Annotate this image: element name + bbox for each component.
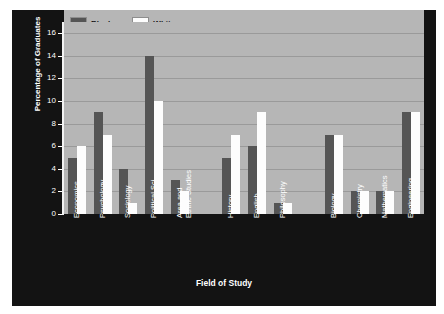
y-tick-mark xyxy=(58,124,62,125)
y-tick-label: 12 xyxy=(26,74,56,82)
x-tick-label: Psychology xyxy=(99,180,108,218)
x-tick-label: Mathematics xyxy=(381,175,390,218)
y-tick-label: 8 xyxy=(26,120,56,128)
chart-figure: Percentage of Graduates Field of Study B… xyxy=(0,0,444,314)
x-tick-label: Engineering xyxy=(407,178,416,218)
x-tick-label: Biology xyxy=(330,193,339,218)
x-tick-label: Philosophy xyxy=(279,181,288,218)
y-tick-label: 10 xyxy=(26,97,56,105)
plot-area xyxy=(64,22,424,214)
y-tick-mark xyxy=(58,191,62,192)
x-axis-title: Field of Study xyxy=(12,278,436,288)
y-tick-label: 2 xyxy=(26,187,56,195)
y-tick-label: 16 xyxy=(26,29,56,37)
x-tick-label: Sociology xyxy=(124,185,133,218)
y-tick-mark xyxy=(58,169,62,170)
y-tick-mark xyxy=(58,33,62,34)
x-tick-label: English xyxy=(253,193,262,218)
y-axis-title: Percentage of Graduates xyxy=(30,0,46,134)
y-tick-mark xyxy=(58,78,62,79)
y-tick-label: 4 xyxy=(26,165,56,173)
y-tick-mark xyxy=(58,101,62,102)
y-tick-mark xyxy=(58,56,62,57)
y-tick-label: 0 xyxy=(26,210,56,218)
y-tick-label: 14 xyxy=(26,52,56,60)
x-tick-label: Chemistry xyxy=(356,184,365,218)
y-tick-mark xyxy=(58,214,62,215)
chart-panel: Percentage of Graduates Field of Study B… xyxy=(12,10,436,306)
x-tick-label: Area and xyxy=(176,188,185,218)
y-tick-mark xyxy=(58,146,62,147)
x-tick-label: Ethnic Studies xyxy=(185,170,194,218)
y-tick-label: 6 xyxy=(26,142,56,150)
bar-series-group xyxy=(64,22,424,214)
x-tick-label: Economics xyxy=(73,181,82,218)
x-tick-label: History xyxy=(227,195,236,218)
x-tick-label: Political Sci. xyxy=(150,178,159,218)
